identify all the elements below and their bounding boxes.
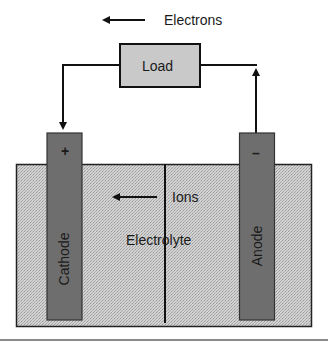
anode-label: Anode <box>249 226 265 266</box>
electrons-label: Electrons <box>164 12 222 28</box>
cathode-sign: + <box>61 144 69 158</box>
anode-sign: – <box>252 146 260 160</box>
divider-line <box>0 339 328 341</box>
load-label: Load <box>142 58 173 74</box>
electrolyte-label: Electrolyte <box>126 232 191 248</box>
cathode-label: Cathode <box>56 233 72 286</box>
ions-label: Ions <box>172 189 198 205</box>
cell-diagram <box>0 0 328 345</box>
cathode-electrode <box>47 133 82 320</box>
